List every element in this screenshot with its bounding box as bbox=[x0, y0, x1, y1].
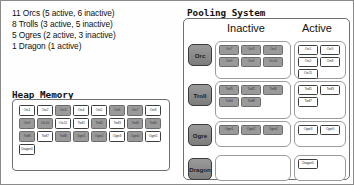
pool-row-ogre: OgreOgre1Ogre2Ogre4Ogre3Ogre5 bbox=[188, 121, 346, 147]
pool-cell[interactable]: Ogre4 bbox=[263, 125, 283, 135]
heap-cell[interactable]: Orc7 bbox=[127, 105, 143, 116]
pool-cell[interactable]: Troll3 bbox=[320, 85, 340, 95]
pool-row-orc: OrcOrc7Orc3Orc4Orc9Orc6Orc10Orc1Orc5Orc2… bbox=[188, 41, 346, 79]
summary-line-ogres: 5 Ogres (2 active, 3 inactive) bbox=[12, 30, 172, 41]
pool-cell[interactable]: Orc6 bbox=[241, 57, 261, 67]
heap-cell[interactable]: Orc3 bbox=[55, 105, 71, 116]
pool-cell[interactable]: Orc9 bbox=[219, 57, 239, 67]
heap-cell[interactable]: Ogre1 bbox=[73, 131, 89, 142]
pooling-system-title: Pooling System bbox=[187, 7, 265, 18]
pool-cell[interactable]: Orc8 bbox=[320, 57, 340, 67]
pool-cell[interactable]: Ogre1 bbox=[219, 125, 239, 135]
inactive-bucket-troll[interactable]: Troll5Troll2Troll6Troll4Troll8 bbox=[215, 81, 291, 119]
summary-line-orcs: 11 Orcs (5 active, 6 inactive) bbox=[12, 8, 172, 19]
heap-cell[interactable]: Ogre5 bbox=[145, 131, 161, 142]
heap-cell[interactable]: Orc9 bbox=[19, 118, 35, 129]
heap-cell[interactable]: Troll6 bbox=[19, 131, 35, 142]
pool-row-troll: TrollTroll5Troll2Troll6Troll4Troll8Troll… bbox=[188, 81, 346, 119]
heap-cell[interactable]: Orc2 bbox=[37, 105, 53, 116]
active-bucket-orc[interactable]: Orc1Orc5Orc2Orc8Orc11 bbox=[294, 41, 346, 79]
heap-cell[interactable]: Troll1 bbox=[73, 118, 89, 129]
heap-cell[interactable]: Orc1 bbox=[19, 105, 35, 116]
pool-cell[interactable]: Orc4 bbox=[263, 45, 283, 55]
column-header-active: Active bbox=[288, 22, 346, 34]
screenshot-frame: 11 Orcs (5 active, 6 inactive) 8 Trolls … bbox=[0, 0, 354, 185]
pool-cell[interactable]: Troll7 bbox=[298, 97, 318, 107]
pool-cell[interactable]: Orc3 bbox=[241, 45, 261, 55]
heap-cell[interactable]: Orc5 bbox=[91, 105, 107, 116]
pool-cell[interactable]: Orc2 bbox=[298, 57, 318, 67]
pool-cell[interactable]: Orc11 bbox=[298, 69, 318, 79]
inactive-bucket-ogre[interactable]: Ogre1Ogre2Ogre4 bbox=[215, 121, 291, 147]
heap-cell[interactable]: Orc11 bbox=[55, 118, 71, 129]
pool-cell[interactable]: Orc5 bbox=[320, 45, 340, 55]
pooling-system-panel: Inactive Active OrcOrc7Orc3Orc4Orc9Orc6O… bbox=[183, 18, 350, 180]
heap-cell[interactable]: Orc4 bbox=[73, 105, 89, 116]
heap-cell[interactable]: Troll8 bbox=[55, 131, 71, 142]
pool-cell[interactable]: Ogre5 bbox=[320, 125, 340, 135]
pool-cell[interactable]: Orc1 bbox=[298, 45, 318, 55]
type-button-orc[interactable]: Orc bbox=[188, 44, 212, 66]
heap-cell[interactable]: Troll2 bbox=[91, 118, 107, 129]
heap-cell[interactable]: Ogre2 bbox=[91, 131, 107, 142]
pool-cell[interactable]: Orc7 bbox=[219, 45, 239, 55]
pool-cell[interactable]: Troll2 bbox=[241, 85, 261, 95]
active-bucket-dragon[interactable]: Dragon1 bbox=[294, 155, 346, 181]
heap-memory-panel: Orc1Orc2Orc3Orc4Orc5Orc6Orc7Orc8Orc9Orc1… bbox=[12, 99, 170, 171]
heap-cell[interactable]: Dragon1 bbox=[19, 144, 35, 155]
pool-cell[interactable]: Troll6 bbox=[263, 85, 283, 95]
summary-line-dragon: 1 Dragon (1 active) bbox=[12, 41, 172, 52]
pool-cell[interactable]: Troll5 bbox=[219, 85, 239, 95]
heap-cell[interactable]: Orc8 bbox=[145, 105, 161, 116]
inactive-bucket-dragon[interactable] bbox=[215, 155, 291, 181]
pool-cell[interactable]: Dragon1 bbox=[298, 159, 318, 169]
pool-cell[interactable]: Ogre2 bbox=[241, 125, 261, 135]
heap-cell[interactable]: Troll4 bbox=[127, 118, 143, 129]
pool-cell[interactable]: Orc10 bbox=[263, 57, 283, 67]
heap-cell[interactable]: Ogre4 bbox=[127, 131, 143, 142]
pool-cell[interactable]: Troll1 bbox=[298, 85, 318, 95]
pool-cell[interactable]: Ogre3 bbox=[298, 125, 318, 135]
inactive-bucket-orc[interactable]: Orc7Orc3Orc4Orc9Orc6Orc10 bbox=[215, 41, 291, 79]
active-bucket-troll[interactable]: Troll1Troll3Troll7 bbox=[294, 81, 346, 119]
summary-line-trolls: 8 Trolls (3 active, 5 inactive) bbox=[12, 19, 172, 30]
active-bucket-ogre[interactable]: Ogre3Ogre5 bbox=[294, 121, 346, 147]
column-header-inactive: Inactive bbox=[208, 22, 284, 34]
heap-cell[interactable]: Troll3 bbox=[109, 118, 125, 129]
type-button-troll[interactable]: Troll bbox=[188, 84, 212, 106]
heap-cell[interactable]: Troll7 bbox=[37, 131, 53, 142]
pool-cell[interactable]: Troll4 bbox=[219, 97, 239, 107]
heap-cell[interactable]: Troll5 bbox=[145, 118, 161, 129]
pool-row-dragon: DragonDragon1 bbox=[188, 155, 346, 181]
heap-cell[interactable]: Ogre3 bbox=[109, 131, 125, 142]
heap-memory-grid: Orc1Orc2Orc3Orc4Orc5Orc6Orc7Orc8Orc9Orc1… bbox=[19, 105, 165, 155]
heap-cell[interactable]: Orc6 bbox=[109, 105, 125, 116]
type-button-dragon[interactable]: Dragon bbox=[188, 158, 212, 180]
pool-cell[interactable]: Troll8 bbox=[241, 97, 261, 107]
heap-cell[interactable]: Orc10 bbox=[37, 118, 53, 129]
type-button-ogre[interactable]: Ogre bbox=[188, 124, 212, 146]
object-summary-list: 11 Orcs (5 active, 6 inactive) 8 Trolls … bbox=[12, 8, 172, 52]
